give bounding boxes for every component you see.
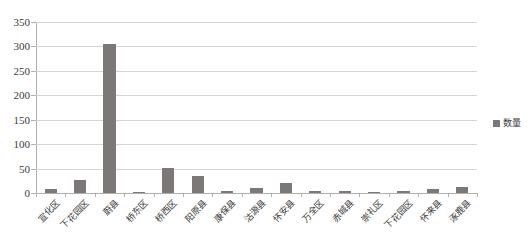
legend-color-swatch: [493, 120, 500, 127]
x-axis-category-label: 宣化区: [36, 198, 62, 224]
y-axis-tick: [31, 22, 36, 23]
x-axis-category-label: 下花园区: [382, 198, 415, 231]
y-axis-tick: [31, 169, 36, 170]
y-axis-tick: [31, 95, 36, 96]
x-axis-tick: [448, 193, 449, 197]
x-axis-category-label: 沽源县: [241, 198, 267, 224]
x-axis-tick: [418, 193, 419, 197]
x-axis-tick: [95, 193, 96, 197]
x-axis-tick: [301, 193, 302, 197]
x-axis-tick: [183, 193, 184, 197]
bar: [74, 180, 86, 193]
x-axis-category-label: 崇礼区: [359, 198, 385, 224]
x-axis-category-label: 康保县: [212, 198, 238, 224]
y-axis-tick-label: 0: [0, 188, 30, 199]
y-axis-tick-label: 200: [0, 90, 30, 101]
y-axis-tick: [31, 71, 36, 72]
x-axis-labels: 宣化区下花园区蔚县桥东区桥西区阳原县康保县沽源县怀安县万全区赤城县崇礼区下花园区…: [36, 198, 477, 247]
y-axis-tick-label: 250: [0, 66, 30, 77]
x-axis-tick: [242, 193, 243, 197]
y-axis-tick-label: 100: [0, 139, 30, 150]
y-axis-tick-label: 350: [0, 17, 30, 28]
bar: [103, 44, 115, 193]
x-axis-category-label: 怀安县: [271, 198, 297, 224]
legend-series-label: 数量: [503, 119, 521, 128]
x-axis-tick: [330, 193, 331, 197]
x-axis-category-label: 桥东区: [124, 198, 150, 224]
y-axis-tick-label: 300: [0, 41, 30, 52]
x-axis-category-label: 万全区: [300, 198, 326, 224]
bar: [192, 176, 204, 193]
bar-chart: 350300250200150100500 宣化区下花园区蔚县桥东区桥西区阳原县…: [0, 0, 531, 247]
x-axis-category-label: 蔚县: [101, 198, 121, 218]
y-axis-tick: [31, 144, 36, 145]
chart-legend: 数量: [493, 119, 521, 128]
x-axis-tick: [124, 193, 125, 197]
x-axis-tick: [154, 193, 155, 197]
plot-area: [36, 22, 477, 193]
x-axis-tick: [65, 193, 66, 197]
y-axis-labels: 350300250200150100500: [0, 22, 30, 193]
x-axis-tick: [359, 193, 360, 197]
bar: [280, 183, 292, 193]
x-axis-tick: [389, 193, 390, 197]
y-axis-tick-label: 150: [0, 115, 30, 126]
x-axis-category-label: 赤城县: [330, 198, 356, 224]
bar: [162, 168, 174, 193]
y-axis-tick: [31, 46, 36, 47]
y-axis-tick: [31, 193, 36, 194]
x-axis-category-label: 阳原县: [183, 198, 209, 224]
bars-group: [36, 22, 477, 193]
x-axis-tick: [477, 193, 478, 197]
x-axis-category-label: 涿鹿县: [447, 198, 473, 224]
x-axis-category-label: 桥西区: [153, 198, 179, 224]
x-axis-tick: [212, 193, 213, 197]
x-axis-tick: [271, 193, 272, 197]
x-axis-category-label: 下花园区: [59, 198, 92, 231]
x-axis-tick: [36, 193, 37, 197]
y-axis-tick: [31, 120, 36, 121]
x-axis-category-label: 怀来县: [418, 198, 444, 224]
y-axis-tick-label: 50: [0, 164, 30, 175]
